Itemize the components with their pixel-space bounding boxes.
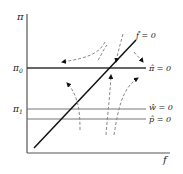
pi-hat-zero-label: π̂ = 0 — [148, 64, 171, 73]
trajectory-lower-right — [114, 78, 138, 135]
f-hat-zero-label: f̂ = 0 — [135, 31, 156, 40]
p-hat-zero-label: p̂ = 0 — [149, 115, 171, 124]
trajectory-lower-mid — [106, 75, 111, 135]
f-hat-zero-line — [34, 40, 136, 148]
pi0-label: π0 — [12, 63, 23, 74]
y-axis-label: π — [16, 11, 24, 22]
trajectory-upper-right — [134, 52, 143, 62]
w-hat-zero-label: ŵ = 0 — [149, 103, 173, 112]
pi1-label: π1 — [12, 104, 23, 115]
x-axis-label: f — [162, 154, 169, 165]
trajectory-mid-left — [98, 45, 107, 60]
phase-diagram: π f π0 π1 f̂ = 0 π̂ = 0 ŵ = 0 p̂ = 0 — [0, 0, 183, 174]
trajectories — [62, 34, 143, 135]
